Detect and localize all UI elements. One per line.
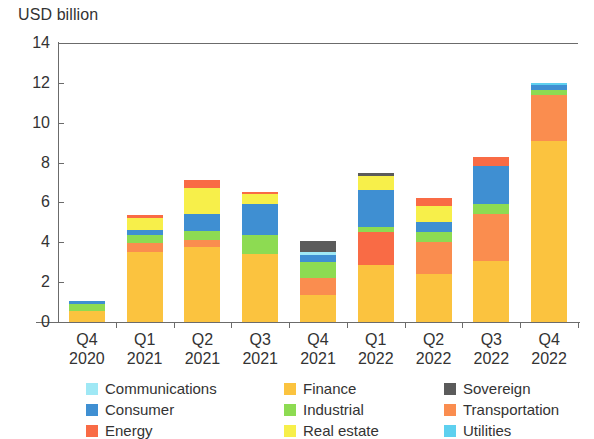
bar-Q3-2021: [242, 192, 278, 322]
legend-item-industrial[interactable]: Industrial: [284, 401, 444, 418]
legend-item-consumer[interactable]: Consumer: [86, 401, 284, 418]
legend-label: Transportation: [463, 401, 559, 418]
bar-segment-consumer: [358, 190, 394, 228]
bar-segment-industrial: [69, 304, 105, 311]
x-axis-label-line: Q4: [514, 330, 584, 349]
bar-segment-finance: [184, 247, 220, 322]
x-axis-label-line: 2022: [514, 349, 584, 368]
x-tick-mark: [289, 322, 290, 328]
bar-segment-industrial: [242, 235, 278, 254]
bar-segment-transportation: [127, 243, 163, 252]
legend-item-utilities[interactable]: Utilities: [444, 422, 584, 439]
legend-label: Sovereign: [463, 380, 531, 397]
bar-segment-real-estate: [358, 176, 394, 190]
legend-item-finance[interactable]: Finance: [284, 380, 444, 397]
bar-segment-transportation: [416, 242, 452, 274]
legend-swatch-icon: [284, 404, 296, 416]
x-tick-mark: [520, 322, 521, 328]
bar-segment-real-estate: [127, 218, 163, 230]
bar-segment-consumer: [300, 255, 336, 262]
legend-label: Industrial: [303, 401, 364, 418]
stacked-bar-chart: USD billion 02468101214 Q42020Q12021Q220…: [0, 0, 594, 439]
legend-swatch-icon: [444, 404, 456, 416]
x-tick-mark: [231, 322, 232, 328]
y-tick-label: 0: [8, 313, 50, 331]
bars-group: [58, 43, 578, 322]
bar-segment-finance: [127, 252, 163, 322]
bar-segment-consumer: [416, 222, 452, 232]
bar-segment-finance: [473, 261, 509, 322]
legend-swatch-icon: [86, 383, 98, 395]
x-axis-label: Q42022: [514, 330, 584, 368]
legend-item-communications[interactable]: Communications: [86, 380, 284, 397]
x-tick-mark: [174, 322, 175, 328]
bar-Q2-2021: [184, 180, 220, 322]
bar-segment-energy-top: [416, 198, 452, 206]
bar-segment-finance: [300, 295, 336, 322]
y-tick-label: 10: [8, 114, 50, 132]
bar-segment-industrial: [416, 232, 452, 242]
bar-segment-consumer: [184, 214, 220, 231]
bar-segment-consumer: [473, 166, 509, 205]
bar-segment-industrial: [300, 262, 336, 278]
bar-Q1-2021: [127, 215, 163, 322]
legend-swatch-icon: [86, 404, 98, 416]
bar-segment-finance: [242, 254, 278, 322]
legend-label: Utilities: [463, 422, 511, 439]
y-tick-label: 8: [8, 154, 50, 172]
legend-label: Finance: [303, 380, 356, 397]
legend-label: Energy: [105, 422, 153, 439]
bar-Q4-2021: [300, 241, 336, 322]
bar-segment-transportation: [300, 278, 336, 295]
legend-swatch-icon: [86, 425, 98, 437]
bar-segment-real-estate: [184, 188, 220, 215]
chart-legend: CommunicationsFinanceSovereignConsumerIn…: [86, 378, 586, 439]
bar-segment-industrial: [473, 204, 509, 214]
bar-segment-finance: [531, 141, 567, 322]
y-tick-label: 14: [8, 34, 50, 52]
bar-Q1-2022: [358, 173, 394, 322]
bar-segment-energy: [358, 232, 394, 265]
bar-segment-finance: [69, 311, 105, 322]
legend-label: Communications: [105, 380, 217, 397]
y-tick-label: 4: [8, 233, 50, 251]
bar-Q3-2022: [473, 157, 509, 322]
x-tick-mark: [347, 322, 348, 328]
y-tick-label: 6: [8, 193, 50, 211]
bar-segment-energy-top: [473, 157, 509, 166]
bar-segment-finance: [358, 265, 394, 322]
y-tick-label: 2: [8, 273, 50, 291]
legend-swatch-icon: [444, 383, 456, 395]
bar-Q2-2022: [416, 198, 452, 322]
bar-segment-energy-top: [184, 180, 220, 188]
legend-swatch-icon: [284, 425, 296, 437]
x-tick-mark: [462, 322, 463, 328]
bar-Q4-2020: [69, 301, 105, 323]
y-axis-title: USD billion: [18, 6, 98, 24]
bar-segment-real-estate: [416, 206, 452, 222]
legend-item-real-estate[interactable]: Real estate: [284, 422, 444, 439]
bar-segment-transportation: [531, 95, 567, 141]
bar-segment-transportation: [473, 214, 509, 261]
x-axis-line: [36, 322, 580, 323]
legend-item-sovereign[interactable]: Sovereign: [444, 380, 584, 397]
x-tick-mark: [578, 322, 579, 328]
x-tick-mark: [116, 322, 117, 328]
bar-segment-real-estate: [242, 194, 278, 205]
legend-item-energy[interactable]: Energy: [86, 422, 284, 439]
bar-segment-industrial: [184, 231, 220, 240]
bar-segment-industrial: [127, 235, 163, 243]
legend-swatch-icon: [284, 383, 296, 395]
bar-Q4-2022: [531, 83, 567, 322]
bar-segment-consumer: [242, 204, 278, 235]
bar-segment-finance: [416, 274, 452, 322]
bar-segment-sovereign: [300, 241, 336, 252]
bar-segment-transportation: [184, 240, 220, 247]
legend-label: Consumer: [105, 401, 174, 418]
legend-swatch-icon: [444, 425, 456, 437]
x-tick-mark: [405, 322, 406, 328]
legend-label: Real estate: [303, 422, 379, 439]
legend-item-transportation[interactable]: Transportation: [444, 401, 584, 418]
y-tick-label: 12: [8, 74, 50, 92]
